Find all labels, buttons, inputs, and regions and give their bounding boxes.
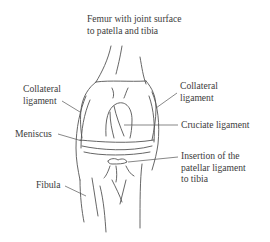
tibia-line-2	[116, 166, 117, 182]
cruciate-ligament-line2	[110, 112, 114, 138]
label-cruciate-line1: Cruciate ligament	[181, 119, 249, 131]
femur-condyle-top	[96, 81, 146, 82]
femur-shaft-inner	[116, 46, 122, 74]
label-collateral-right: Collateral ligament	[180, 80, 218, 103]
label-femur-line1: Femur with joint surface	[87, 13, 182, 25]
label-patellar-insertion-line3: to tibia	[181, 173, 246, 185]
femur-groove-1	[112, 88, 114, 98]
label-patellar-insertion-line1: Insertion of the	[181, 150, 246, 162]
leader-patellar-insertion	[128, 157, 178, 162]
label-patellar-insertion-line2: patellar ligament	[181, 162, 246, 174]
label-collateral-left: Collateral ligament	[23, 83, 61, 106]
label-fibula: Fibula	[36, 179, 61, 191]
tibia-line-1	[104, 166, 110, 178]
label-fibula-line1: Fibula	[36, 179, 61, 191]
leader-collateral-right	[156, 93, 177, 108]
label-collateral-left-line2: ligament	[23, 95, 61, 107]
label-meniscus-line1: Meniscus	[15, 128, 52, 140]
tibia-plateau	[84, 152, 150, 155]
label-meniscus: Meniscus	[15, 128, 52, 140]
fibula-right	[92, 178, 98, 216]
tibia-shaft-right	[140, 164, 142, 228]
femur-condyle-left	[81, 82, 97, 138]
label-femur-line2: to patella and tibia	[87, 25, 182, 37]
tibia-line-3	[126, 166, 134, 176]
intercondylar-notch	[106, 103, 132, 138]
label-femur: Femur with joint surface to patella and …	[87, 13, 182, 36]
leader-fibula	[65, 186, 86, 196]
patellar-insertion	[108, 159, 127, 164]
meniscus-bottom	[82, 146, 152, 150]
femur-groove-2	[124, 88, 128, 98]
meniscus-top	[80, 140, 154, 142]
fibula-left	[80, 180, 84, 222]
cruciate-ligament-line1	[114, 106, 124, 136]
label-collateral-left-line1: Collateral	[23, 83, 61, 95]
femur-shaft-left	[96, 46, 111, 82]
leader-collateral-left	[62, 101, 80, 112]
tibia-line-4	[112, 180, 122, 202]
label-collateral-right-line2: ligament	[180, 92, 218, 104]
label-cruciate: Cruciate ligament	[181, 119, 249, 131]
label-collateral-right-line1: Collateral	[180, 80, 218, 92]
label-patellar-insertion: Insertion of the patellar ligament to ti…	[181, 150, 246, 185]
tibia-line-5	[120, 180, 126, 204]
leader-meniscus	[58, 134, 82, 141]
tibia-shaft-left	[100, 186, 106, 232]
collateral-right-inner	[149, 96, 154, 142]
femur-shaft-right	[140, 57, 146, 84]
